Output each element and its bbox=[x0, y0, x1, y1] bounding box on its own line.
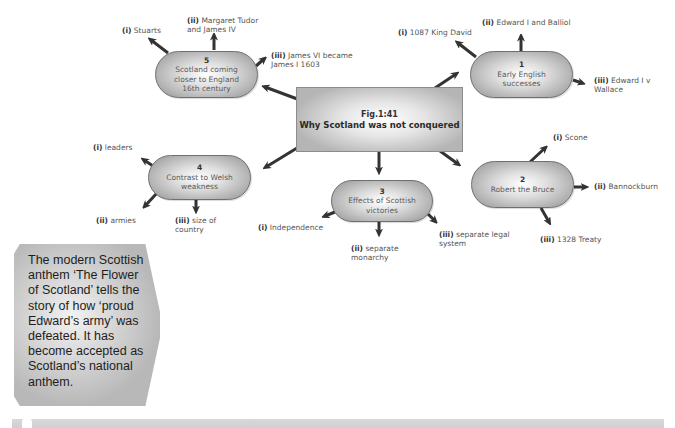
node-label-line: victories bbox=[366, 206, 398, 216]
branch-label: (ii) armies bbox=[96, 216, 136, 225]
branch-label: (i) leaders bbox=[93, 143, 133, 152]
branch-label: (i) Stuarts bbox=[122, 26, 161, 35]
callout-text: The modern Scottish anthem ‘The Flower o… bbox=[28, 253, 143, 389]
branch-text: Stuarts bbox=[134, 26, 161, 35]
branch-text: Independence bbox=[270, 223, 323, 232]
branch-numeral: (iii) bbox=[540, 235, 555, 244]
node-number: 5 bbox=[204, 56, 209, 66]
branch-text: 1328 Treaty bbox=[557, 235, 601, 244]
branch-text: separate legal bbox=[456, 230, 510, 239]
branch-numeral: (ii) bbox=[96, 216, 108, 225]
branch-label: (iii) James VI became James I 1603 bbox=[271, 51, 353, 69]
branch-label: (i) Independence bbox=[258, 223, 323, 232]
node-robert-the-bruce: 2 Robert the Bruce bbox=[471, 161, 574, 208]
branch-numeral: (ii) bbox=[594, 182, 606, 191]
branch-text: monarchy bbox=[351, 253, 388, 262]
branch-numeral: (i) bbox=[553, 133, 562, 142]
node-number: 4 bbox=[197, 163, 202, 173]
node-effects-of-scottish-victories: 3 Effects of Scottish victories bbox=[331, 180, 433, 222]
branch-text: Edward I v bbox=[611, 76, 650, 85]
branch-text: Bannockburn bbox=[608, 182, 658, 191]
node-number: 3 bbox=[379, 187, 384, 197]
node-label-line: Effects of Scottish bbox=[348, 196, 416, 206]
footer-bar bbox=[12, 419, 664, 428]
node-label-line: 16th century bbox=[182, 84, 230, 94]
branch-numeral: (i) bbox=[398, 28, 407, 37]
node-label-line: Early English bbox=[497, 70, 545, 80]
branch-text: Wallace bbox=[594, 85, 623, 94]
branch-text: country bbox=[175, 225, 204, 234]
branch-text: separate bbox=[365, 244, 398, 253]
branch-text: 1087 King David bbox=[410, 28, 472, 37]
node-label-line: successes bbox=[503, 79, 541, 89]
node-label-line: Scotland coming bbox=[175, 65, 238, 75]
node-number: 2 bbox=[520, 175, 525, 185]
branch-numeral: (iii) bbox=[594, 76, 609, 85]
node-early-english-successes: 1 Early English successes bbox=[470, 51, 573, 98]
branch-numeral: (ii) bbox=[351, 244, 363, 253]
branch-numeral: (ii) bbox=[187, 16, 199, 25]
branch-text: Edward I and Balliol bbox=[496, 18, 570, 27]
branch-text: James VI became bbox=[288, 51, 353, 60]
branch-label: (ii) Bannockburn bbox=[594, 182, 658, 191]
node-number: 1 bbox=[519, 60, 524, 70]
branch-label: (i) Scone bbox=[553, 133, 588, 142]
node-label-line: Robert the Bruce bbox=[491, 185, 555, 195]
branch-label: (i) 1087 King David bbox=[398, 28, 472, 37]
branch-text: Margaret Tudor bbox=[201, 16, 258, 25]
branch-text: James I 1603 bbox=[271, 60, 320, 69]
footer-tab-notch bbox=[22, 417, 32, 428]
node-scotland-coming-closer-to-england: 5 Scotland coming closer to England 16th… bbox=[155, 51, 258, 98]
branch-numeral: (iii) bbox=[271, 51, 286, 60]
branch-label: (iii) size of country bbox=[175, 216, 216, 234]
branch-text: leaders bbox=[105, 143, 133, 152]
node-label-line: Contrast to Welsh bbox=[166, 173, 233, 183]
figure-label: Fig.1:41 bbox=[361, 109, 398, 120]
node-label-line: closer to England bbox=[174, 75, 239, 85]
branch-label: (ii) separate monarchy bbox=[351, 244, 399, 262]
branch-text: Scone bbox=[565, 133, 588, 142]
diagram-title: Why Scotland was not conquered bbox=[299, 120, 459, 131]
branch-numeral: (i) bbox=[258, 223, 267, 232]
branch-text: armies bbox=[110, 216, 135, 225]
branch-text: size of bbox=[192, 216, 216, 225]
branch-numeral: (i) bbox=[122, 26, 131, 35]
node-contrast-to-welsh-weakness: 4 Contrast to Welsh weakness bbox=[148, 155, 251, 200]
branch-label: (iii) separate legal system bbox=[439, 230, 510, 248]
central-topic-box: Fig.1:41 Why Scotland was not conquered bbox=[296, 87, 463, 152]
branch-label: (iii) 1328 Treaty bbox=[540, 235, 601, 244]
branch-text: system bbox=[439, 239, 466, 248]
branch-numeral: (i) bbox=[93, 143, 102, 152]
branch-label: (ii) Edward I and Balliol bbox=[482, 18, 570, 27]
branch-numeral: (iii) bbox=[175, 216, 190, 225]
anthem-callout-box: The modern Scottish anthem ‘The Flower o… bbox=[14, 244, 160, 406]
branch-label: (iii) Edward I v Wallace bbox=[594, 76, 650, 94]
node-label-line: weakness bbox=[181, 182, 218, 192]
branch-label: (ii) Margaret Tudor and James IV bbox=[187, 16, 258, 34]
branch-numeral: (iii) bbox=[439, 230, 454, 239]
branch-text: and James IV bbox=[187, 25, 236, 34]
branch-numeral: (ii) bbox=[482, 18, 494, 27]
